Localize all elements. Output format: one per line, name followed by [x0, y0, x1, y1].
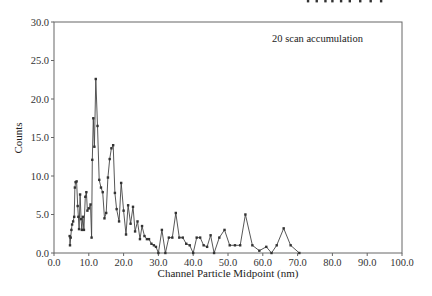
- data-point-marker: [307, 0, 309, 2]
- data-point-marker: [349, 0, 351, 2]
- data-point-marker: [168, 236, 170, 238]
- data-point-marker: [74, 186, 76, 188]
- y-tick-label: 15.0: [31, 132, 49, 143]
- annotation-text: 20 scan accumulation: [272, 33, 364, 44]
- data-point-marker: [134, 230, 136, 232]
- data-point-marker: [114, 192, 116, 194]
- data-point-marker: [206, 246, 208, 248]
- data-point-marker: [118, 220, 120, 222]
- data-point-marker: [182, 236, 184, 238]
- data-point-marker: [91, 159, 93, 161]
- data-point-marker: [112, 144, 114, 146]
- data-point-marker: [98, 179, 100, 181]
- data-point-marker: [164, 252, 166, 254]
- data-point-marker: [244, 213, 246, 215]
- data-point-marker: [70, 229, 72, 231]
- data-point-marker: [185, 243, 187, 245]
- data-point-marker: [81, 229, 83, 231]
- chart: 0.05.010.015.020.025.030.0 0.010.020.030…: [0, 0, 432, 296]
- data-point-marker: [93, 146, 95, 148]
- data-point-marker: [239, 244, 241, 246]
- data-point-marker: [85, 191, 87, 193]
- data-point-marker: [213, 252, 215, 254]
- x-tick-label: 90.0: [358, 257, 376, 268]
- data-point-marker: [72, 220, 74, 222]
- x-tick-label: 0.0: [47, 257, 60, 268]
- data-point-marker: [289, 244, 291, 246]
- y-tick-label: 20.0: [31, 94, 49, 105]
- data-point-marker: [192, 252, 194, 254]
- data-point-marker: [105, 212, 107, 214]
- data-point-marker: [270, 252, 272, 254]
- data-point-marker: [340, 0, 342, 2]
- data-point-marker: [139, 238, 141, 240]
- data-point-marker: [148, 238, 150, 240]
- data-point-marker: [380, 0, 382, 2]
- x-tick-label: 20.0: [114, 257, 132, 268]
- data-point-marker: [95, 78, 97, 80]
- data-point-marker: [82, 216, 84, 218]
- x-tick-label: 80.0: [323, 257, 341, 268]
- data-point-marker: [71, 223, 73, 225]
- data-point-marker: [136, 220, 138, 222]
- data-point-marker: [122, 209, 124, 211]
- data-point-marker: [89, 203, 91, 205]
- data-point-marker: [120, 182, 122, 184]
- data-point-marker: [298, 252, 300, 254]
- x-axis-ticks: 0.010.020.030.040.050.060.070.080.090.01…: [47, 253, 413, 268]
- data-point-marker: [359, 0, 361, 2]
- data-point-marker: [265, 246, 267, 248]
- data-point-marker: [110, 147, 112, 149]
- x-axis-title: Channel Particle Midpoint (nm): [158, 267, 299, 280]
- data-point-marker: [218, 236, 220, 238]
- data-point-marker: [229, 244, 231, 246]
- data-point-marker: [155, 246, 157, 248]
- data-point-marker: [153, 244, 155, 246]
- data-point-marker: [276, 244, 278, 246]
- x-tick-label: 100.0: [390, 257, 414, 268]
- data-point-marker: [70, 236, 72, 238]
- data-point-marker: [150, 243, 152, 245]
- x-tick-label: 10.0: [80, 257, 98, 268]
- y-axis-title: Counts: [12, 122, 24, 153]
- data-point-marker: [209, 234, 211, 236]
- data-point-marker: [129, 223, 131, 225]
- data-point-marker: [103, 217, 105, 219]
- data-point-marker: [100, 186, 102, 188]
- data-point-marker: [76, 205, 78, 207]
- data-point-marker: [77, 216, 79, 218]
- data-point-marker: [86, 209, 88, 211]
- data-point-marker: [234, 244, 236, 246]
- data-point-marker: [141, 225, 143, 227]
- data-point-marker: [143, 235, 145, 237]
- data-point-marker: [282, 227, 284, 229]
- series-line: [70, 79, 300, 253]
- data-point-marker: [132, 206, 134, 208]
- data-point-marker: [80, 218, 82, 220]
- data-point-marker: [73, 216, 75, 218]
- data-point-marker: [223, 229, 225, 231]
- data-point-marker: [83, 229, 85, 231]
- data-point-marker: [75, 180, 77, 182]
- data-point-marker: [161, 229, 163, 231]
- data-point-marker: [324, 0, 326, 2]
- data-point-marker: [199, 236, 201, 238]
- data-point-marker: [88, 207, 90, 209]
- y-axis-ticks: 0.05.010.015.020.025.030.0: [31, 17, 54, 259]
- data-point-marker: [316, 0, 318, 2]
- data-point-marker: [251, 244, 253, 246]
- data-point-marker: [146, 238, 148, 240]
- plot-frame: [54, 22, 402, 253]
- data-point-marker: [258, 249, 260, 251]
- data-point-marker: [125, 233, 127, 235]
- y-tick-label: 5.0: [36, 209, 49, 220]
- data-point-marker: [90, 236, 92, 238]
- y-tick-label: 25.0: [31, 55, 49, 66]
- data-point-marker: [189, 244, 191, 246]
- data-point-marker: [108, 158, 110, 160]
- data-point-marker: [102, 191, 104, 193]
- data-point-marker: [202, 244, 204, 246]
- data-point-marker: [157, 252, 159, 254]
- data-point-marker: [96, 125, 98, 127]
- data-point-marker: [115, 208, 117, 210]
